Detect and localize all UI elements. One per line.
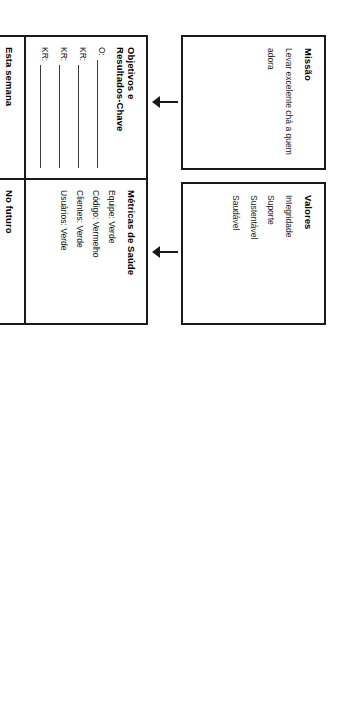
this-week-title: Esta semana	[4, 47, 15, 168]
okr-row-label: KR:	[59, 47, 68, 61]
values-item: Saudável	[230, 195, 242, 312]
values-title: Valores	[303, 195, 314, 312]
values-box: Valores Integridade Suporte Sustentável …	[181, 182, 326, 325]
future-title: No futuro	[4, 190, 15, 313]
arrow-down-icon	[152, 246, 178, 258]
okr-quadrant: Objetivos e Resultados-Chave O: KR: KR: …	[24, 37, 146, 180]
health-metric-item: Código: Vermelho	[91, 190, 101, 313]
mission-box: Missão Levar excelente chá a quem adora	[181, 35, 326, 170]
okr-row-label: KR:	[40, 47, 49, 61]
health-metrics-quadrant: Métricas de Saúde Equipe: Verde Código: …	[24, 180, 146, 323]
okr-row-label: KR:	[78, 47, 87, 61]
values-item: Sustentável	[248, 195, 260, 312]
mission-title: Missão	[303, 48, 314, 157]
values-item: Suporte	[265, 195, 277, 312]
health-metrics-title: Métricas de Saúde	[126, 190, 137, 313]
strategy-one-pager: Missão Levar excelente chá a quem adora …	[0, 0, 348, 719]
mission-line-2: adora	[265, 48, 277, 157]
okr-row: KR:	[78, 47, 88, 168]
okr-write-line[interactable]	[78, 65, 88, 168]
this-week-quadrant: Esta semana	[0, 37, 24, 180]
okr-row: KR:	[59, 47, 69, 168]
health-metric-item: Equipe: Verde	[107, 190, 117, 313]
okr-row: O:	[97, 47, 107, 168]
health-metrics-list: Equipe: Verde Código: Vermelho Clientes:…	[59, 190, 117, 313]
okr-write-line[interactable]	[40, 65, 50, 168]
values-item: Integridade	[283, 195, 295, 312]
future-quadrant: No futuro	[0, 180, 24, 323]
okr-title-line-1: Objetivos e	[126, 47, 137, 168]
mission-line-1: Levar excelente chá a quem	[283, 48, 295, 157]
health-metric-item: Usuários: Verde	[59, 190, 69, 313]
arrow-down-icon	[152, 96, 178, 108]
okr-row-label: O:	[97, 47, 106, 56]
okr-write-line[interactable]	[59, 65, 69, 168]
mission-body: Levar excelente chá a quem adora	[265, 48, 294, 157]
okr-title-line-2: Resultados-Chave	[115, 47, 126, 168]
values-list: Integridade Suporte Sustentável Saudável	[230, 195, 294, 312]
quad-panel: Objetivos e Resultados-Chave O: KR: KR: …	[0, 35, 148, 325]
okr-row: KR:	[40, 47, 50, 168]
okr-write-line[interactable]	[97, 60, 107, 168]
okr-rows: O: KR: KR: KR:	[40, 47, 107, 168]
health-metric-item: Clientes: Verde	[75, 190, 85, 313]
